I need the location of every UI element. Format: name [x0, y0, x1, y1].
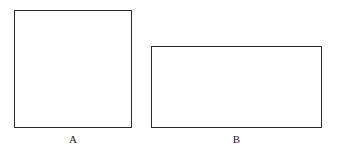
figure-canvas: A B — [0, 0, 343, 153]
shape-rectangle-b — [151, 46, 322, 128]
shape-label-b: B — [221, 134, 253, 145]
shape-label-a: A — [57, 134, 89, 145]
shape-square-a — [14, 10, 132, 128]
